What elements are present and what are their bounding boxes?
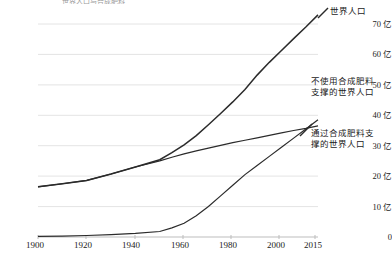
series-line-world-population: [38, 15, 318, 187]
series-lines: [38, 15, 318, 237]
annotation-with-fertilizer: 通过合成肥料支 撑的世界人口: [311, 128, 374, 151]
population-fertilizer-chart: 世界人口与合成肥料 70 亿 60 亿 50 亿 40 亿 30 亿 20 亿 …: [0, 0, 392, 260]
series-line-without-fertilizer: [38, 126, 318, 187]
series-line-with-fertilizer: [38, 120, 318, 237]
annotation-without-fertilizer: 不使用合成肥料 支撑的世界人口: [311, 76, 374, 99]
annotation-leaders: [300, 8, 328, 136]
annotation-world-population: 世界人口: [330, 6, 366, 17]
leader-world-population: [318, 8, 328, 18]
gridlines: [38, 24, 318, 207]
